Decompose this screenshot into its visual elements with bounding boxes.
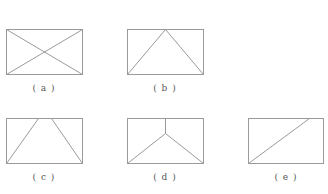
figure-c-rectangle — [7, 119, 83, 164]
figure-e-rectangle — [249, 119, 324, 164]
figure-c-right-leg — [52, 119, 83, 164]
figure-b-rectangle — [128, 30, 204, 75]
figure-e-diagonal — [249, 119, 310, 164]
figure-b-triangle — [128, 30, 204, 75]
figure-d-label: ( d ) — [145, 172, 185, 182]
figure-d-chevron — [128, 134, 204, 164]
figure-c-label: ( c ) — [24, 172, 64, 182]
figure-b-label: ( b ) — [145, 83, 185, 93]
figure-e-label: ( e ) — [266, 172, 306, 182]
figure-a-label: ( a ) — [24, 83, 64, 93]
figure-d — [128, 119, 204, 164]
figure-b — [128, 30, 204, 75]
figure-a — [7, 30, 83, 75]
figure-e — [249, 119, 324, 164]
diagram-canvas — [0, 0, 328, 194]
figure-c — [7, 119, 83, 164]
figure-c-left-leg — [7, 119, 39, 164]
